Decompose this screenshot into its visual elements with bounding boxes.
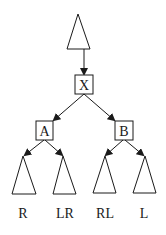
edge-x-to-a <box>54 94 84 120</box>
subtree-lr-triangle <box>53 156 76 194</box>
subtree-l-triangle <box>133 156 156 193</box>
node-a-label: A <box>39 124 50 139</box>
node-a: A <box>36 121 53 140</box>
node-x: X <box>75 75 93 94</box>
edge-b-to-l <box>125 140 143 155</box>
subtree-r-triangle <box>12 156 36 194</box>
node-b-label: B <box>119 124 128 139</box>
leaf-label-r: R <box>18 206 28 221</box>
edge-b-to-rl <box>106 140 123 155</box>
root-subtree-triangle <box>67 14 90 49</box>
leaf-label-l: L <box>140 206 149 221</box>
leaf-label-lr: LR <box>56 206 75 221</box>
node-x-label: X <box>79 78 89 93</box>
edge-x-to-b <box>84 94 114 120</box>
node-b: B <box>115 121 133 140</box>
edge-a-to-lr <box>45 140 62 155</box>
tree-diagram: X A B R LR RL L <box>0 0 166 235</box>
leaf-label-rl: RL <box>96 206 114 221</box>
edge-a-to-r <box>25 140 44 155</box>
subtree-rl-triangle <box>93 156 116 193</box>
